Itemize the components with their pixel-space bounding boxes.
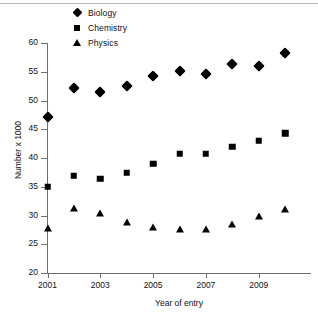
- x-tick-mark: [259, 273, 260, 278]
- data-point-physics-2004: [123, 218, 131, 225]
- y-tick-label-wrap: 30: [20, 211, 38, 221]
- data-point-physics-2003: [96, 209, 104, 216]
- data-point-biology-2002: [68, 83, 79, 94]
- x-tick-label: 2003: [85, 281, 115, 290]
- data-point-biology-2007: [200, 68, 211, 79]
- data-point-chemistry-2003: [97, 175, 104, 182]
- y-axis-line: [47, 43, 48, 274]
- plot-area: 202530354045505560 20012003200520072009 …: [0, 0, 318, 323]
- x-tick-mark: [100, 273, 101, 278]
- y-axis-title: Number x 1000: [13, 115, 23, 185]
- data-point-physics-2006: [176, 226, 184, 233]
- y-tick-label-wrap: 55: [20, 67, 38, 77]
- data-point-chemistry-2006: [176, 151, 183, 158]
- data-point-chemistry-2004: [123, 170, 130, 177]
- data-point-chemistry-2002: [71, 173, 78, 180]
- x-tick-label: 2001: [33, 281, 63, 290]
- y-tick-label: 55: [22, 67, 38, 76]
- data-point-physics-2009: [255, 213, 263, 220]
- data-point-physics-2008: [228, 221, 236, 228]
- x-axis-line: [47, 273, 311, 274]
- data-point-chemistry-2009: [255, 138, 262, 145]
- y-tick-label-wrap: 25: [20, 239, 38, 249]
- y-tick-label-wrap: 50: [20, 96, 38, 106]
- y-tick-label: 60: [22, 38, 38, 47]
- x-axis-title: Year of entry: [47, 298, 311, 308]
- x-tick-label: 2007: [191, 281, 221, 290]
- y-tick-label: 25: [22, 239, 38, 248]
- data-point-biology-2001: [42, 111, 53, 122]
- y-tick-label-wrap: 60: [20, 38, 38, 48]
- data-point-biology-2003: [95, 87, 106, 98]
- data-point-chemistry-2008: [229, 143, 236, 150]
- data-point-chemistry-2007: [203, 151, 210, 158]
- y-tick-label: 20: [22, 268, 38, 277]
- chart-figure: BiologyChemistryPhysics 2025303540455055…: [0, 0, 318, 323]
- y-tick-label-wrap: 20: [20, 268, 38, 278]
- data-point-physics-2010: [281, 205, 289, 212]
- data-point-biology-2005: [147, 71, 158, 82]
- x-tick-mark: [153, 273, 154, 278]
- y-tick-mark: [41, 43, 47, 44]
- x-tick-label: 2009: [244, 281, 274, 290]
- y-tick-mark: [41, 216, 47, 217]
- y-tick-label: 50: [22, 96, 38, 105]
- data-point-biology-2010: [279, 47, 290, 58]
- y-tick-mark: [41, 273, 47, 274]
- y-tick-mark: [41, 129, 47, 130]
- data-point-physics-2005: [149, 224, 157, 231]
- data-point-biology-2008: [227, 58, 238, 69]
- data-point-chemistry-2005: [150, 161, 157, 168]
- data-point-physics-2002: [70, 205, 78, 212]
- y-tick-label: 45: [22, 124, 38, 133]
- y-tick-label: 35: [22, 182, 38, 191]
- y-tick-mark: [41, 101, 47, 102]
- data-point-chemistry-2001: [44, 184, 51, 191]
- y-tick-mark: [41, 72, 47, 73]
- y-tick-mark: [41, 244, 47, 245]
- data-point-physics-2001: [44, 224, 52, 231]
- y-tick-mark: [41, 158, 47, 159]
- y-tick-label: 40: [22, 153, 38, 162]
- x-tick-mark: [48, 273, 49, 278]
- data-point-biology-2009: [253, 60, 264, 71]
- data-point-biology-2006: [174, 65, 185, 76]
- x-tick-label: 2005: [138, 281, 168, 290]
- x-tick-mark: [206, 273, 207, 278]
- data-point-physics-2007: [202, 226, 210, 233]
- data-point-biology-2004: [121, 80, 132, 91]
- data-point-chemistry-2010: [282, 130, 289, 137]
- y-tick-label: 30: [22, 211, 38, 220]
